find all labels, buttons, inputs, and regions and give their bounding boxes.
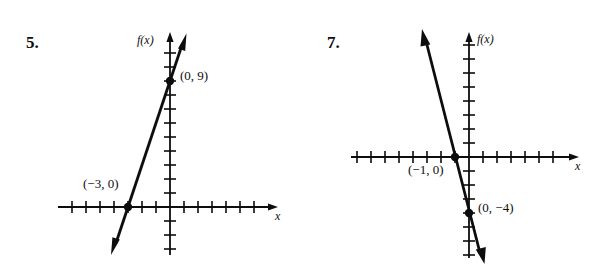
y-axis-arrow-7 xyxy=(465,32,472,42)
y-axis-arrow-5 xyxy=(166,32,173,42)
point-marker-neg3-0 xyxy=(124,203,132,211)
point-marker-0-9 xyxy=(166,77,174,85)
point-label-0-9: (0, 9) xyxy=(180,69,208,82)
point-label-neg1-0: (−1, 0) xyxy=(408,163,444,176)
point-label-0-neg4: (0, −4) xyxy=(478,201,514,214)
point-marker-0-neg4 xyxy=(465,209,473,217)
y-axis-label-5: f(x) xyxy=(137,34,154,46)
problem-7: 7. xyxy=(297,0,594,265)
function-line-7-arrow-down xyxy=(476,247,486,264)
problem-5: 5. xyxy=(0,0,297,265)
worksheet-page: 5. xyxy=(0,0,594,265)
point-marker-neg1-0 xyxy=(451,153,459,161)
y-axis-label-7: f(x) xyxy=(477,33,494,45)
x-axis-label-7: x xyxy=(575,160,580,172)
x-axis-label-5: x xyxy=(275,210,280,222)
function-line-5 xyxy=(116,45,182,243)
function-line-7-arrow-up xyxy=(421,29,431,47)
graph-7 xyxy=(297,0,594,265)
function-line-5-arrow-up xyxy=(178,34,187,52)
function-line-5-arrow-down xyxy=(111,237,120,255)
point-label-neg3-0: (−3, 0) xyxy=(83,177,119,190)
